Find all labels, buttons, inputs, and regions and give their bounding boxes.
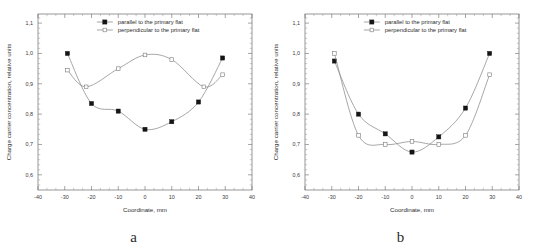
data-point-a-1-6	[221, 73, 225, 77]
panel-label-b: b	[267, 229, 534, 246]
plot-frame-b	[305, 14, 519, 190]
x-tick-label-b-6: 20	[463, 194, 469, 200]
data-point-a-1-2	[116, 67, 120, 71]
x-tick-label-a-3: -10	[114, 194, 122, 200]
y-tick-label-a-3: 0,9	[26, 81, 34, 87]
chart-svg-b: -40-30-20-100102030400,60,70,80,91,01,1C…	[267, 0, 534, 248]
x-tick-label-a-4: 0	[144, 194, 147, 200]
data-point-a-1-5	[202, 85, 206, 89]
plot-area-b: -40-30-20-100102030400,60,70,80,91,01,1C…	[272, 14, 522, 213]
y-axis-title-a: Charge carrier concentration, relative u…	[5, 44, 12, 161]
x-tick-label-b-5: 10	[436, 194, 442, 200]
data-point-a-0-6	[220, 56, 224, 60]
legend-label-a-0: parallel to the primary flat	[118, 19, 183, 25]
data-point-a-1-3	[143, 53, 147, 57]
y-axis-title-b: Charge carrier concentration, relative u…	[272, 44, 279, 161]
x-tick-label-a-8: 40	[249, 194, 255, 200]
data-point-a-1-4	[170, 58, 174, 62]
data-point-a-0-1	[89, 101, 93, 105]
data-point-b-1-3	[410, 140, 414, 144]
x-tick-label-a-1: -30	[61, 194, 69, 200]
x-axis-title-a: Coordinate, mm	[123, 206, 167, 213]
data-point-a-1-0	[66, 68, 70, 72]
legend-marker-a-1	[103, 28, 107, 32]
legend-marker-b-0	[370, 20, 374, 24]
chart-panel-b: -40-30-20-100102030400,60,70,80,91,01,1C…	[267, 0, 534, 248]
data-point-b-1-4	[437, 143, 441, 147]
y-tick-label-a-4: 1,0	[26, 50, 34, 56]
data-point-b-0-5	[463, 106, 467, 110]
chart-svg-a: -40-30-20-100102030400,60,70,80,91,01,1C…	[0, 0, 267, 248]
x-tick-label-a-0: -40	[34, 194, 42, 200]
plot-area-a: -40-30-20-100102030400,60,70,80,91,01,1C…	[5, 14, 255, 213]
x-tick-label-a-6: 20	[196, 194, 202, 200]
x-tick-label-a-2: -20	[88, 194, 96, 200]
y-tick-label-b-2: 0,8	[293, 111, 301, 117]
series-curve-a-1	[67, 54, 222, 87]
data-point-b-0-1	[356, 112, 360, 116]
y-tick-label-a-1: 0,7	[26, 141, 34, 147]
y-tick-label-b-3: 0,9	[293, 81, 301, 87]
data-point-b-1-6	[488, 73, 492, 77]
legend-label-b-1: perpendicular to the primary flat	[385, 27, 467, 33]
x-tick-label-a-7: 30	[222, 194, 228, 200]
data-point-a-0-0	[65, 51, 69, 55]
y-tick-label-b-1: 0,7	[293, 141, 301, 147]
chart-panel-a: -40-30-20-100102030400,60,70,80,91,01,1C…	[0, 0, 267, 248]
series-curve-a-0	[67, 53, 222, 129]
x-tick-label-b-7: 30	[489, 194, 495, 200]
x-tick-label-b-8: 40	[516, 194, 522, 200]
figure-container: -40-30-20-100102030400,60,70,80,91,01,1C…	[0, 0, 535, 248]
y-tick-label-b-5: 1,1	[293, 20, 301, 26]
data-point-a-1-1	[84, 85, 88, 89]
data-point-b-0-6	[487, 51, 491, 55]
x-axis-title-b: Coordinate, mm	[390, 206, 434, 213]
data-point-b-0-3	[410, 150, 414, 154]
legend-marker-a-0	[103, 20, 107, 24]
data-point-b-1-5	[464, 134, 468, 138]
data-point-b-1-0	[333, 52, 337, 56]
legend-label-a-1: perpendicular to the primary flat	[118, 27, 200, 33]
panel-label-a: a	[0, 229, 267, 246]
x-tick-label-b-3: -10	[381, 194, 389, 200]
data-point-b-0-2	[383, 132, 387, 136]
data-point-b-1-2	[383, 143, 387, 147]
y-tick-label-a-5: 1,1	[26, 20, 34, 26]
x-tick-label-b-2: -20	[355, 194, 363, 200]
y-tick-label-b-4: 1,0	[293, 50, 301, 56]
series-curve-b-1	[334, 53, 489, 145]
y-tick-label-a-0: 0,6	[26, 172, 34, 178]
data-point-b-1-1	[357, 134, 361, 138]
data-point-b-0-4	[437, 135, 441, 139]
data-point-a-0-4	[170, 120, 174, 124]
legend-marker-b-1	[370, 28, 374, 32]
legend-label-b-0: parallel to the primary flat	[385, 19, 450, 25]
x-tick-label-a-5: 10	[169, 194, 175, 200]
plot-frame-a	[38, 14, 252, 190]
data-point-a-0-2	[116, 109, 120, 113]
data-point-a-0-5	[196, 100, 200, 104]
y-tick-label-b-0: 0,6	[293, 172, 301, 178]
x-tick-label-b-0: -40	[301, 194, 309, 200]
x-tick-label-b-4: 0	[411, 194, 414, 200]
data-point-a-0-3	[143, 127, 147, 131]
y-tick-label-a-2: 0,8	[26, 111, 34, 117]
x-tick-label-b-1: -30	[328, 194, 336, 200]
